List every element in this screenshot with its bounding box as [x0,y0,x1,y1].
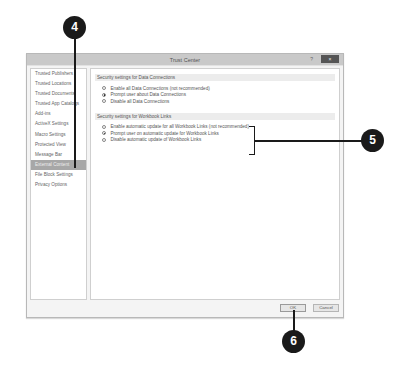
sidebar-item-privacy-options[interactable]: Privacy Options [31,180,86,190]
sidebar-item-file-block-settings[interactable]: File Block Settings [31,170,86,180]
sidebar-item-trusted-documents[interactable]: Trusted Documents [31,89,86,99]
radio-unchecked-icon[interactable] [102,125,106,129]
cancel-button[interactable]: Cancel [313,304,339,312]
section-heading-data-connections: Security settings for Data Connections [95,74,335,81]
sidebar-item-message-bar[interactable]: Message Bar [31,150,86,160]
sidebar-item-activex-settings[interactable]: ActiveX Settings [31,119,86,129]
option-label: Disable automatic update of Workbook Lin… [110,137,201,142]
close-button[interactable]: × [321,55,339,63]
sidebar-item-add-ins[interactable]: Add-ins [31,109,86,119]
workbook-links-options: Enable automatic update for all Workbook… [91,120,339,147]
radio-checked-icon[interactable] [102,131,106,135]
sidebar-item-trusted-publishers[interactable]: Trusted Publishers [31,69,86,79]
radio-checked-icon[interactable] [102,93,106,97]
help-icon[interactable]: ? [310,56,313,62]
sidebar-item-trusted-locations[interactable]: Trusted Locations [31,79,86,89]
data-connections-options: Enable all Data Connections (not recomme… [91,81,339,108]
radio-disable-all-data-connections[interactable]: Disable all Data Connections [102,98,339,105]
sidebar-item-protected-view[interactable]: Protected View [31,140,86,150]
sidebar-item-external-content[interactable]: External Content [31,160,86,170]
sidebar-item-macro-settings[interactable]: Macro Settings [31,130,86,140]
radio-unchecked-icon[interactable] [102,86,106,90]
option-label: Disable all Data Connections [110,99,169,104]
sidebar-item-trusted-app-catalogs[interactable]: Trusted App Catalogs [31,99,86,109]
callout-5-badge: 5 [361,129,384,152]
sidebar-nav: Trusted Publishers Trusted Locations Tru… [30,68,87,300]
option-label: Prompt user about Data Connections [110,92,186,97]
option-label: Enable all Data Connections (not recomme… [110,86,209,91]
section-heading-workbook-links: Security settings for Workbook Links [95,113,335,120]
callout-5-leader-line [255,140,363,142]
radio-unchecked-icon[interactable] [102,138,106,142]
settings-panel: Security settings for Data Connections E… [90,68,340,300]
dialog-footer: OK Cancel [27,301,343,317]
callout-6-badge: 6 [282,330,305,353]
option-label: Prompt user on automatic update for Work… [110,131,218,136]
option-label: Enable automatic update for all Workbook… [110,124,249,129]
callout-4-leader-line [74,38,76,168]
radio-unchecked-icon[interactable] [102,99,106,103]
callout-4-badge: 4 [63,16,86,39]
